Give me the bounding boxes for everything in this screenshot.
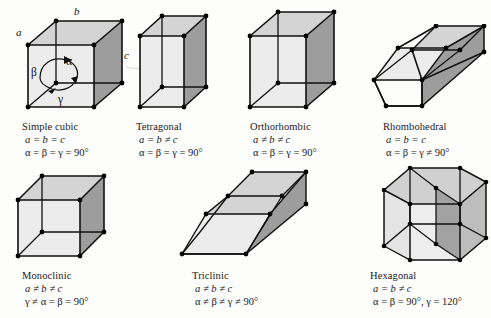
caption-tetragonal: Tetragonal a = b ≠ c α = β = γ = 90°: [136, 121, 203, 159]
unit-cell-rhombohedral: [370, 24, 490, 112]
caption-hexagonal: Hexagonal a = b ≠ c α = β = 90°, γ = 120…: [370, 270, 462, 308]
tetragonal-svg: [134, 8, 234, 116]
edge-relation-rhombohedral: a = b = c: [383, 134, 450, 147]
edge-relation-tetragonal: a = b ≠ c: [136, 134, 203, 147]
angle-relation-monoclinic: γ ≠ α = β = 90°: [22, 296, 89, 309]
unit-cell-monoclinic: [14, 168, 120, 270]
unit-cell-triclinic: [176, 168, 310, 270]
simple-cubic-svg: [18, 8, 134, 116]
caption-monoclinic: Monoclinic a ≠ b ≠ c γ ≠ α = β = 90°: [22, 270, 89, 308]
axis-label-b: b: [74, 5, 80, 17]
system-name-tetragonal: Tetragonal: [136, 121, 203, 134]
angle-relation-rhombohedral: α = β = γ ≠ 90°: [383, 147, 450, 160]
system-name-simple-cubic: Simple cubic: [22, 121, 89, 134]
triclinic-svg: [176, 168, 310, 270]
axis-label-c: c: [124, 49, 129, 61]
caption-triclinic: Triclinic a ≠ b ≠ c α ≠ β ≠ γ ≠ 90°: [192, 270, 258, 308]
edge-relation-monoclinic: a ≠ b ≠ c: [22, 283, 89, 296]
caption-rhombohedral: Rhombohedral a = b = c α = β = γ ≠ 90°: [383, 121, 450, 159]
angle-relation-tetragonal: α = β = γ = 90°: [136, 147, 203, 160]
orthorhombic-svg: [244, 6, 354, 118]
system-name-triclinic: Triclinic: [192, 270, 258, 283]
angle-label-beta: β: [31, 66, 37, 78]
system-name-rhombohedral: Rhombohedral: [383, 121, 450, 134]
edge-relation-hexagonal: a = b ≠ c: [370, 283, 462, 296]
angle-relation-orthorhombic: α = β = γ = 90°: [250, 147, 317, 160]
unit-cell-hexagonal: [352, 164, 491, 272]
caption-orthorhombic: Orthorhombic a ≠ b ≠ c α = β = γ = 90°: [250, 121, 317, 159]
edge-relation-orthorhombic: a ≠ b ≠ c: [250, 134, 317, 147]
hexagonal-svg: [352, 164, 491, 272]
unit-cell-tetragonal: [134, 8, 234, 116]
angle-relation-hexagonal: α = β = 90°, γ = 120°: [370, 296, 462, 309]
system-name-hexagonal: Hexagonal: [370, 270, 462, 283]
unit-cell-orthorhombic: [244, 6, 354, 118]
caption-simple-cubic: Simple cubic a = b = c α = β = γ = 90°: [22, 121, 89, 159]
monoclinic-svg: [14, 168, 120, 270]
system-name-orthorhombic: Orthorhombic: [250, 121, 317, 134]
system-name-monoclinic: Monoclinic: [22, 270, 89, 283]
crystal-systems-figure: a b c α β γ: [0, 0, 491, 318]
angle-label-alpha: α: [66, 55, 72, 67]
angle-label-gamma: γ: [58, 93, 63, 105]
edge-relation-triclinic: a ≠ b ≠ c: [192, 283, 258, 296]
edge-relation-simple-cubic: a = b = c: [22, 134, 89, 147]
angle-relation-simple-cubic: α = β = γ = 90°: [22, 147, 89, 160]
angle-relation-triclinic: α ≠ β ≠ γ ≠ 90°: [192, 296, 258, 309]
rhombohedral-svg: [370, 24, 490, 112]
unit-cell-simple-cubic: a b c α β γ: [18, 8, 134, 116]
axis-label-a: a: [16, 26, 22, 38]
